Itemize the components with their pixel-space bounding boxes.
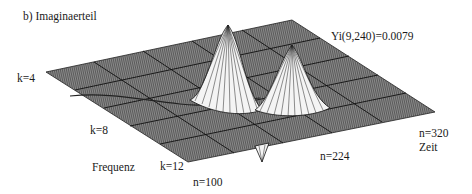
tick-n224: n=224 [320,150,350,163]
chart-title: b) Imaginaerteil [23,10,97,23]
tick-n320: n=320 [419,127,449,140]
axis-label-frequenz: Frequenz [92,161,135,174]
annotation: Yi(9,240)=0.0079 [331,30,414,43]
dip [255,143,269,162]
tick-k4: k=4 [17,72,35,85]
axis-label-zeit: Zeit [419,141,438,154]
tick-k12: k=12 [160,160,184,173]
tick-n100: n=100 [193,176,223,189]
tick-k8: k=8 [90,124,108,137]
